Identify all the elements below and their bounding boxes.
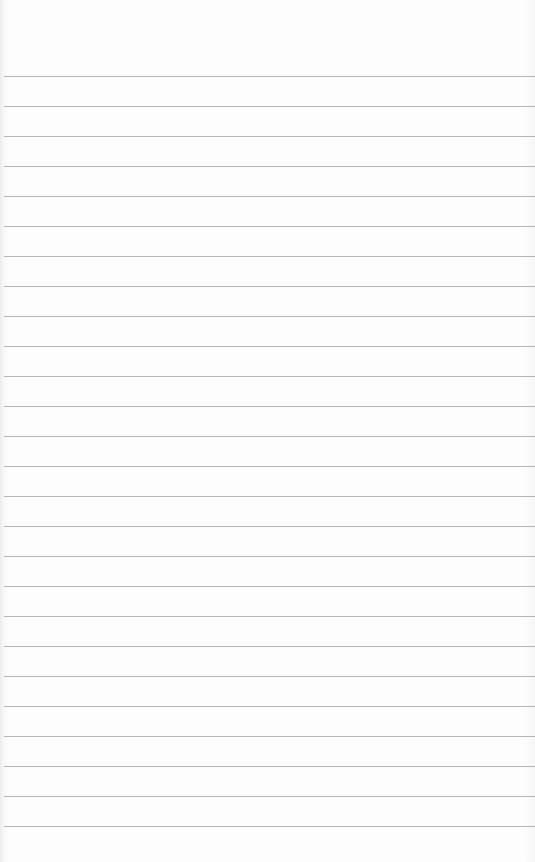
ruled-line: [4, 406, 535, 407]
ruled-line: [4, 316, 535, 317]
ruled-line: [4, 466, 535, 467]
ruled-line: [4, 256, 535, 257]
ruled-line: [4, 436, 535, 437]
ruled-line: [4, 286, 535, 287]
ruled-line: [4, 346, 535, 347]
ruled-line: [4, 556, 535, 557]
ruled-line: [4, 136, 535, 137]
ruled-line: [4, 826, 535, 827]
ruled-line: [4, 676, 535, 677]
ruled-line: [4, 706, 535, 707]
ruled-line: [4, 586, 535, 587]
ruled-line: [4, 166, 535, 167]
ruled-line: [4, 796, 535, 797]
ruled-line: [4, 616, 535, 617]
ruled-line: [4, 196, 535, 197]
ruled-line: [4, 496, 535, 497]
ruled-line: [4, 766, 535, 767]
ruled-line: [4, 736, 535, 737]
ruled-line: [4, 76, 535, 77]
ruled-line: [4, 646, 535, 647]
ruled-line: [4, 106, 535, 107]
lined-paper: [0, 0, 535, 862]
ruled-line: [4, 376, 535, 377]
ruled-line: [4, 526, 535, 527]
ruled-line: [4, 226, 535, 227]
